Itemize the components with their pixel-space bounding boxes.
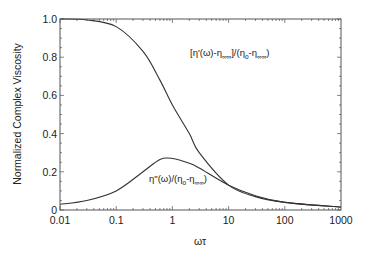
curve-label-loss: η"(ω)/(ηo-η∞∞) xyxy=(149,173,207,186)
x-tick-labels: 0.010.11101001000 xyxy=(50,214,353,226)
y-tick-label: 0.4 xyxy=(42,128,57,140)
x-tick-label: 0.1 xyxy=(109,214,124,226)
x-tick-label: 1000 xyxy=(329,214,353,226)
y-axis-title: Normalized Complex Viscosity xyxy=(11,42,23,184)
y-tick-label: 0.6 xyxy=(42,89,57,101)
x-tick-label: 0.01 xyxy=(50,214,71,226)
y-tick-labels: 00.20.40.60.81.0 xyxy=(42,13,57,216)
x-tick-label: 10 xyxy=(223,214,235,226)
y-tick-label: 0.2 xyxy=(42,166,57,178)
x-axis-title: ωτ xyxy=(194,235,207,247)
x-tick-label: 1 xyxy=(169,214,175,226)
curve-label-storage: [η'(ω)-η∞∞]/(ηo-η∞∞) xyxy=(190,47,269,60)
y-tick-label: 0.8 xyxy=(42,51,57,63)
chart: 00.20.40.60.81.0 0.010.11101001000 Norma… xyxy=(0,0,368,263)
y-tick-label: 1.0 xyxy=(42,13,57,25)
x-tick-label: 100 xyxy=(276,214,294,226)
